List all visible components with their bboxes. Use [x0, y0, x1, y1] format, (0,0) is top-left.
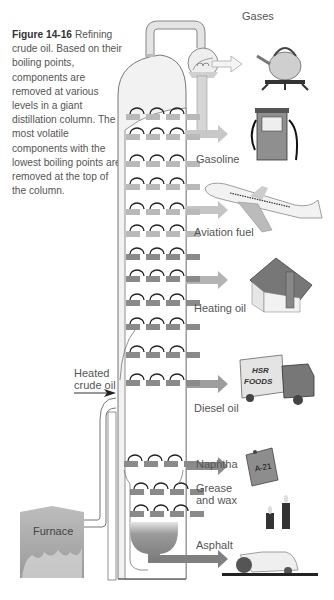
truck-text-line1: HSR [252, 366, 269, 375]
candles-icon [266, 495, 290, 529]
aviation-fuel-label: Aviation fuel [194, 226, 254, 239]
furnace-label: Furnace [33, 525, 73, 538]
house-icon [250, 258, 312, 312]
feed-pipe [84, 398, 116, 580]
furnace [20, 506, 84, 578]
truck-icon: HSR FOODS [240, 355, 314, 405]
truck-text-line2: FOODS [244, 377, 273, 386]
wax-label: and wax [196, 494, 237, 507]
fuel-can-icon: A-21 [246, 448, 278, 486]
kettle-on-stove-icon [257, 48, 308, 90]
gas-pump-icon [252, 108, 297, 160]
heating-oil-label: Heating oil [194, 302, 246, 315]
crude-oil-label: crude oil [74, 379, 116, 392]
distillation-diagram: HSR FOODS A-21 [0, 0, 334, 600]
distillation-column [118, 55, 186, 579]
road-roller-icon [222, 552, 318, 576]
gasoline-label: Gasoline [196, 153, 239, 166]
naphtha-label: Naphtha [196, 458, 238, 471]
diesel-oil-label: Diesel oil [194, 402, 239, 415]
asphalt-label: Asphalt [196, 539, 233, 552]
gases-label: Gases [242, 10, 274, 23]
